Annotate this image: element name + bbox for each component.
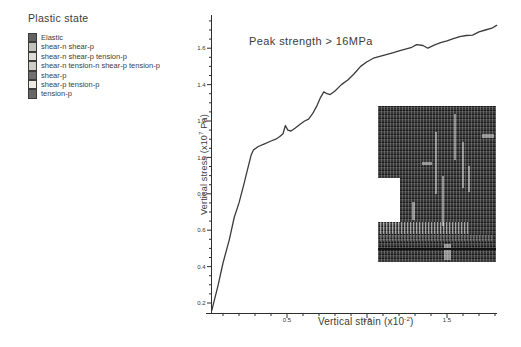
inset-texture-streak <box>444 244 451 260</box>
peak-strength-annotation: Peak strength > 16MPa <box>249 35 373 47</box>
y-tick-label: 1.6 <box>197 45 206 51</box>
model-notch <box>378 178 400 222</box>
model-plastic-state-inset <box>378 106 496 262</box>
y-tick-label: 0.2 <box>197 300 206 306</box>
inset-texture-streak <box>412 202 415 220</box>
inset-texture-streak <box>482 134 494 138</box>
x-axis-label-close: ) <box>410 316 414 327</box>
inset-texture-streak <box>454 114 456 160</box>
inset-bright-band <box>380 222 470 234</box>
inset-bright-band <box>380 235 494 241</box>
x-axis-label-text: Vertical strain (x10 <box>318 316 404 327</box>
x-tick-label: 1.5 <box>443 317 452 323</box>
x-axis-label: Vertical strain (x10-2) <box>318 316 414 327</box>
inset-dark-line <box>378 248 496 250</box>
y-axis-label-close: Pa) <box>199 114 209 131</box>
inset-texture-streak <box>435 132 437 194</box>
inset-texture-streak <box>422 162 432 165</box>
y-axis-label-exponent: 7 <box>198 131 204 135</box>
inset-texture-streak <box>468 166 470 192</box>
y-tick-label: 0.4 <box>197 264 206 270</box>
x-tick-label: 0.5 <box>283 317 292 323</box>
figure-stress-strain-plot: Plastic state Elastic shear-n shear-p sh… <box>0 0 521 347</box>
inset-texture-streak <box>442 176 444 226</box>
y-axis-label: Vertical stress (x107 Pa) <box>198 85 209 245</box>
inset-texture-streak <box>462 142 464 188</box>
y-axis-label-text: Vertical stress (x10 <box>199 135 209 215</box>
